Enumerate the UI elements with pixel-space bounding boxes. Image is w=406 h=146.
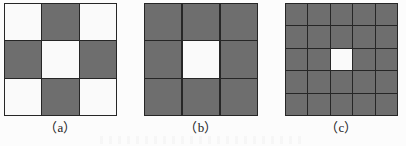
grid-cell-c-r1c1 [286, 4, 307, 25]
grid-cell-c-r3c3 [331, 49, 352, 70]
grid-cell-a-r1c3 [80, 4, 116, 40]
grid-cell-c-r4c3 [331, 71, 352, 92]
grid-cell-c-r3c1 [286, 49, 307, 70]
figure-root: （a） （b） （c） [0, 0, 406, 146]
caption-a: （a） [0, 119, 121, 137]
grid-b [144, 3, 258, 116]
caption-c: （c） [285, 119, 398, 137]
grid-cell-c-r4c5 [376, 71, 397, 92]
grid-cell-b-r3c2 [183, 79, 219, 115]
grid-cell-a-r2c1 [5, 41, 41, 77]
grid-cell-c-r1c3 [331, 4, 352, 25]
grid-cell-c-r3c5 [376, 49, 397, 70]
figure-panel-a: （a） [0, 0, 130, 146]
grid-cell-a-r3c1 [5, 79, 41, 115]
grid-cell-c-r2c5 [376, 26, 397, 47]
grid-cell-b-r2c2 [183, 41, 219, 77]
grid-cell-c-r5c4 [353, 94, 374, 115]
grid-cell-c-r5c1 [286, 94, 307, 115]
caption-b: （b） [144, 119, 258, 137]
grid-cell-c-r3c4 [353, 49, 374, 70]
grid-cell-c-r5c2 [308, 94, 329, 115]
grid-cell-c-r1c4 [353, 4, 374, 25]
figure-panel-b: （b） [130, 0, 270, 146]
grid-c [285, 3, 398, 116]
grid-a [4, 3, 117, 116]
grid-cell-c-r4c1 [286, 71, 307, 92]
grid-cell-c-r5c5 [376, 94, 397, 115]
grid-cell-c-r2c1 [286, 26, 307, 47]
figure-panel-c: （c） [270, 0, 406, 146]
grid-cell-b-r1c2 [183, 4, 219, 40]
grid-cell-b-r3c1 [145, 79, 181, 115]
grid-cell-c-r3c2 [308, 49, 329, 70]
grid-cell-b-r2c1 [145, 41, 181, 77]
grid-cell-b-r3c3 [221, 79, 257, 115]
grid-cell-a-r3c2 [42, 79, 78, 115]
grid-cell-a-r2c2 [42, 41, 78, 77]
grid-cell-a-r2c3 [80, 41, 116, 77]
grid-cell-a-r1c2 [42, 4, 78, 40]
grid-cell-c-r5c3 [331, 94, 352, 115]
grid-cell-c-r2c3 [331, 26, 352, 47]
grid-cell-a-r3c3 [80, 79, 116, 115]
grid-cell-b-r1c1 [145, 4, 181, 40]
grid-cell-a-r1c1 [5, 4, 41, 40]
grid-cell-c-r2c2 [308, 26, 329, 47]
grid-cell-c-r1c5 [376, 4, 397, 25]
grid-cell-c-r1c2 [308, 4, 329, 25]
grid-cell-c-r4c4 [353, 71, 374, 92]
grid-cell-b-r1c3 [221, 4, 257, 40]
grid-cell-b-r2c3 [221, 41, 257, 77]
grid-cell-c-r2c4 [353, 26, 374, 47]
grid-cell-c-r4c2 [308, 71, 329, 92]
